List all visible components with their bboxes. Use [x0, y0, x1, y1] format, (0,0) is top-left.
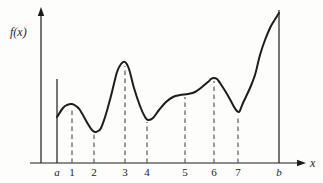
- axes-and-curve: a1234567b: [30, 7, 306, 178]
- function-curve: [57, 13, 279, 132]
- x-tick-label-7: 7: [235, 166, 241, 178]
- x-tick-label-b: b: [276, 166, 282, 178]
- x-tick-label-2: 2: [91, 166, 97, 178]
- x-axis-label: x: [309, 156, 316, 170]
- x-tick-label-a: a: [54, 166, 60, 178]
- function-graph-figure: f(x) x a1234567b: [0, 0, 323, 183]
- y-axis-label: f(x): [10, 25, 27, 39]
- x-tick-label-5: 5: [182, 166, 188, 178]
- x-tick-label-1: 1: [69, 166, 75, 178]
- x-tick-label-4: 4: [144, 166, 150, 178]
- y-axis-arrowhead-icon: [38, 7, 44, 16]
- x-axis-arrowhead-icon: [297, 160, 306, 166]
- x-tick-label-6: 6: [211, 166, 217, 178]
- x-tick-label-3: 3: [122, 166, 128, 178]
- figure-canvas: f(x) x a1234567b: [0, 0, 323, 183]
